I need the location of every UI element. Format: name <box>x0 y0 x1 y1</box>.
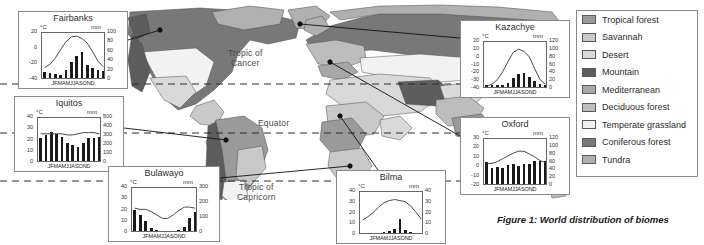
ytick-temperature: 20 <box>15 137 33 143</box>
ytick-temperature: 0 <box>109 229 127 235</box>
ytick-precipitation: 300 <box>199 184 208 190</box>
ytick-temperature: 20 <box>337 210 355 216</box>
label-tropic-of-capricorn: Tropic of Capricorn <box>237 182 276 202</box>
plot-area <box>37 117 101 162</box>
ytick-precipitation: 10 <box>425 220 431 226</box>
legend-swatch-icon <box>582 155 596 164</box>
ytick-precipitation: 0 <box>549 85 552 91</box>
ytick-temperature: 20 <box>461 38 479 44</box>
legend-item-coniferous-forest: Coniferous forest <box>577 134 697 152</box>
ytick-temperature: -10 <box>461 173 479 179</box>
temperature-line <box>38 118 101 162</box>
legend-item-mediterranean: Mediterranean <box>577 81 697 99</box>
plot-area <box>41 32 105 79</box>
ytick-precipitation: 0 <box>103 159 106 165</box>
xaxis-month-labels: JFMAMJJASOND <box>41 80 105 86</box>
plot-area <box>131 187 197 232</box>
legend-label: Desert <box>602 50 629 60</box>
climate-graph-bulawayo: Bulawayo°Cmm4030201003002001000JFMAMJJAS… <box>108 166 220 242</box>
ytick-temperature: 40 <box>337 188 355 194</box>
ytick-temperature: -20 <box>19 60 37 66</box>
ytick-precipitation: 80 <box>107 38 113 44</box>
ytick-precipitation: 400 <box>103 123 112 129</box>
ytick-precipitation: 60 <box>549 159 555 165</box>
legend-label: Mountain <box>602 67 639 77</box>
ytick-precipitation: 0 <box>199 229 202 235</box>
biome-legend: Tropical forestSavannahDesertMountainMed… <box>576 10 698 177</box>
axis-unit-temperature: °C <box>482 130 489 136</box>
temperature-line <box>484 42 547 88</box>
ytick-precipitation: 100 <box>549 46 558 52</box>
plot-area <box>359 191 423 234</box>
ytick-temperature: -30 <box>461 77 479 83</box>
ytick-precipitation: 40 <box>107 57 113 63</box>
temperature-line <box>360 192 423 234</box>
legend-item-temperate-grassland: Temperate grassland <box>577 116 697 134</box>
ytick-temperature: 20 <box>109 207 127 213</box>
ytick-temperature: 0 <box>19 45 37 51</box>
climate-graph-fairbanks: Fairbanks°Cmm200-20-40100806040200JFMAMJ… <box>18 11 128 89</box>
ytick-precipitation: 80 <box>549 151 555 157</box>
climate-graph-title: Bulawayo <box>109 168 219 178</box>
ytick-precipitation: 20 <box>549 174 555 180</box>
axis-unit-precipitation: mm <box>409 183 419 189</box>
ytick-precipitation: 200 <box>199 199 208 205</box>
ytick-precipitation: 60 <box>549 62 555 68</box>
figure-caption: Figure 1: World distribution of biomes <box>497 214 669 225</box>
legend-label: Deciduous forest <box>602 102 670 112</box>
label-equator: Equator <box>258 118 289 128</box>
legend-item-deciduous-forest: Deciduous forest <box>577 99 697 117</box>
ytick-precipitation: 40 <box>425 188 431 194</box>
plot-area <box>483 41 547 88</box>
ytick-temperature: 30 <box>461 135 479 141</box>
ytick-precipitation: 100 <box>549 143 558 149</box>
climate-graph-title: Kazachye <box>461 22 569 32</box>
ytick-precipitation: 300 <box>103 132 112 138</box>
temperature-line <box>132 188 197 232</box>
ytick-temperature: 10 <box>109 218 127 224</box>
legend-swatch-icon <box>582 68 596 77</box>
legend-label: Mediterranean <box>602 85 660 95</box>
ytick-temperature: 20 <box>461 144 479 150</box>
ytick-precipitation: 200 <box>103 141 112 147</box>
ytick-temperature: 20 <box>19 29 37 35</box>
axis-unit-precipitation: mm <box>533 130 543 136</box>
legend-item-tropical-forest: Tropical forest <box>577 11 697 29</box>
map-point-kazachye <box>298 22 302 26</box>
temperature-line <box>484 139 547 185</box>
legend-label: Savannah <box>602 32 643 42</box>
ytick-precipitation: 120 <box>549 135 558 141</box>
map-point-bulawayo <box>348 164 352 168</box>
xaxis-month-labels: JFMAMJJASOND <box>483 89 547 95</box>
ytick-temperature: 0 <box>337 231 355 237</box>
axis-unit-precipitation: mm <box>87 109 97 115</box>
ytick-temperature: 30 <box>337 199 355 205</box>
xaxis-month-labels: JFMAMJJASOND <box>359 235 423 241</box>
ytick-temperature: 0 <box>15 159 33 165</box>
legend-item-mountain: Mountain <box>577 64 697 82</box>
ytick-temperature: 10 <box>461 46 479 52</box>
legend-item-savannah: Savannah <box>577 29 697 47</box>
ytick-precipitation: 500 <box>103 114 112 120</box>
ytick-precipitation: 60 <box>107 48 113 54</box>
figure-root: Tropic of Cancer Equator Tropic of Capri… <box>0 0 704 245</box>
climate-graph-bilma: Bilma°Cmm403020100403020100JFMAMJJASOND <box>336 170 446 244</box>
climate-graph-title: Fairbanks <box>19 13 127 23</box>
ytick-temperature: 40 <box>15 114 33 120</box>
region-east-africa-desert <box>380 116 412 140</box>
climate-graph-title: Bilma <box>337 172 445 182</box>
climate-graph-title: Iquitos <box>15 98 123 108</box>
ytick-temperature: 10 <box>337 220 355 226</box>
legend-swatch-icon <box>582 138 596 147</box>
climate-graph-kazachye: Kazachye°Cmm20100-10-20-30-4012010080604… <box>460 20 570 98</box>
ytick-precipitation: 20 <box>549 77 555 83</box>
ytick-temperature: 10 <box>15 148 33 154</box>
ytick-precipitation: 100 <box>107 29 116 35</box>
ytick-precipitation: 0 <box>425 231 428 237</box>
ytick-precipitation: 40 <box>549 166 555 172</box>
axis-unit-temperature: °C <box>40 24 47 30</box>
ytick-temperature: -40 <box>19 76 37 82</box>
ytick-precipitation: 0 <box>549 182 552 188</box>
xaxis-month-labels: JFMAMJJASOND <box>37 163 101 169</box>
ytick-temperature: -20 <box>461 182 479 188</box>
